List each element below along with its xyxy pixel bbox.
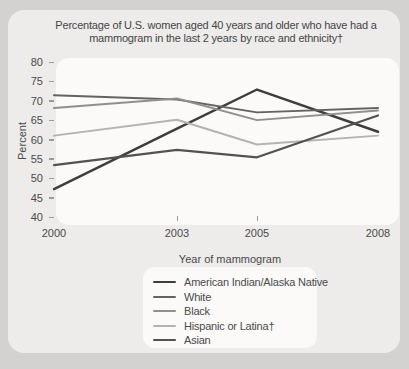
y-tick-mark xyxy=(49,139,54,141)
y-tick-label: 40 xyxy=(25,211,43,223)
x-tick-mark xyxy=(177,216,179,221)
legend-item: Asian xyxy=(153,333,317,348)
y-tick-label: 65 xyxy=(25,114,43,126)
y-tick-mark xyxy=(49,81,54,83)
legend-line-swatch-icon xyxy=(153,325,176,327)
y-tick-mark xyxy=(49,178,54,180)
x-tick-label: 2008 xyxy=(356,227,400,239)
y-tick-mark xyxy=(49,197,54,199)
y-tick-label: 60 xyxy=(25,134,43,146)
legend-box: American Indian/Alaska NativeWhiteBlackH… xyxy=(143,267,317,348)
legend-line-swatch-icon xyxy=(153,339,176,341)
legend-label: American Indian/Alaska Native xyxy=(184,276,328,288)
legend-label: Black xyxy=(184,305,210,317)
legend-label: Asian xyxy=(184,334,211,346)
y-tick-label: 45 xyxy=(25,192,43,204)
legend-line-swatch-icon xyxy=(153,296,176,298)
y-tick-label: 80 xyxy=(25,56,43,68)
y-tick-mark xyxy=(49,120,54,122)
y-tick-mark xyxy=(49,158,54,160)
page-background: Percentage of U.S. women aged 40 years a… xyxy=(0,0,409,369)
figure-panel: Percentage of U.S. women aged 40 years a… xyxy=(8,10,400,353)
x-tick-label: 2005 xyxy=(235,227,279,239)
chart-title: Percentage of U.S. women aged 40 years a… xyxy=(40,19,392,45)
legend-item: American Indian/Alaska Native xyxy=(153,275,317,290)
plot-area xyxy=(56,58,399,225)
y-tick-mark xyxy=(49,217,54,219)
x-tick-label: 2000 xyxy=(32,227,76,239)
legend-label: Hispanic or Latina† xyxy=(184,320,274,332)
legend-item: Black xyxy=(153,304,317,319)
x-tick-label: 2003 xyxy=(155,227,199,239)
x-axis-title: Year of mammogram xyxy=(150,253,310,265)
y-tick-mark xyxy=(49,100,54,102)
legend-item: Hispanic or Latina† xyxy=(153,319,317,334)
legend-line-swatch-icon xyxy=(153,310,176,312)
legend-label: White xyxy=(184,291,211,303)
y-tick-label: 50 xyxy=(25,172,43,184)
y-tick-label: 55 xyxy=(25,153,43,165)
y-tick-label: 75 xyxy=(25,75,43,87)
y-tick-mark xyxy=(49,62,54,64)
legend-line-swatch-icon xyxy=(153,281,176,283)
y-tick-label: 70 xyxy=(25,95,43,107)
x-tick-mark xyxy=(257,216,259,221)
legend-item: White xyxy=(153,290,317,305)
